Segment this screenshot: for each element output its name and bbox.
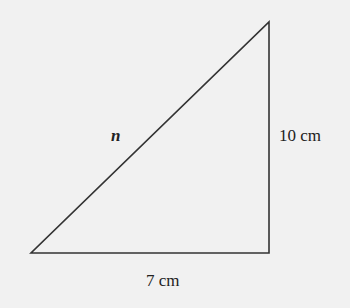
hypotenuse-label: n (111, 126, 120, 146)
vertical-side-label: 10 cm (279, 126, 321, 146)
triangle-diagram (0, 0, 350, 308)
right-triangle (31, 22, 269, 253)
horizontal-side-label: 7 cm (146, 271, 180, 291)
